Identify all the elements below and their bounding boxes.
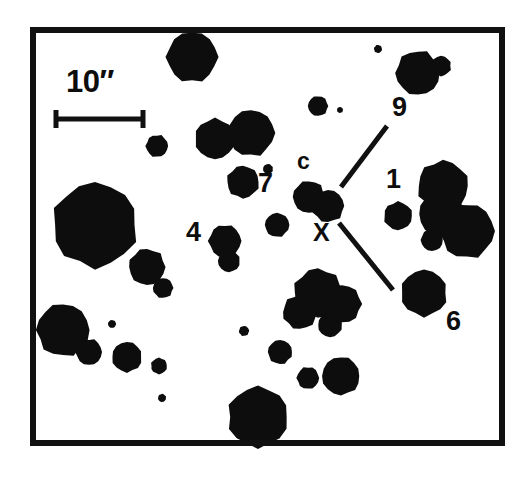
figure-root: 9c714X6 10″ <box>0 0 530 481</box>
source-blob <box>227 166 258 199</box>
source-blob <box>153 278 174 298</box>
source-blob <box>431 56 451 77</box>
source-blob <box>374 45 382 53</box>
source-blob <box>265 213 290 237</box>
source-blob <box>402 270 446 318</box>
source-blob <box>239 326 249 336</box>
pointer-line-lower <box>339 223 393 290</box>
source-blob <box>308 96 328 115</box>
label-9: 9 <box>392 94 407 121</box>
label-4: 4 <box>186 219 201 246</box>
source-blob <box>158 394 166 402</box>
source-blob <box>108 320 116 328</box>
pointer-line-upper <box>341 126 387 187</box>
label-c: c <box>297 150 310 173</box>
source-blob <box>112 342 141 373</box>
source-blob <box>229 385 287 449</box>
source-blob <box>145 135 168 157</box>
pointer-lines-group <box>339 126 393 290</box>
scalebar-label: 10″ <box>66 66 114 97</box>
source-blob <box>322 358 359 396</box>
scalebar-group <box>54 110 145 128</box>
source-blob <box>54 182 136 270</box>
label-X: X <box>313 220 330 245</box>
source-blob <box>218 250 240 272</box>
source-blob <box>268 340 292 364</box>
label-6: 6 <box>446 308 461 335</box>
source-blob <box>296 367 319 388</box>
label-7: 7 <box>258 170 273 197</box>
source-blob <box>395 51 439 94</box>
source-blob <box>165 33 218 82</box>
source-blob <box>337 107 343 113</box>
label-1: 1 <box>386 166 401 193</box>
source-blob <box>196 118 235 160</box>
source-blob <box>227 110 275 156</box>
source-blob <box>151 358 167 375</box>
source-blob <box>384 201 411 230</box>
